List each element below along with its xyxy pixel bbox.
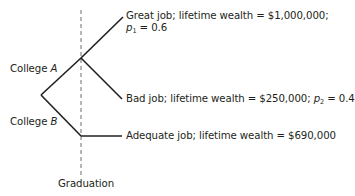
prob-value-p1: = 0.6 bbox=[136, 22, 167, 33]
label-great-job-probability: p1 = 0.6 bbox=[126, 22, 167, 37]
label-bad-job: Bad job; lifetime wealth = $250,000; p2 … bbox=[126, 93, 355, 108]
label-adequate-job: Adequate job; lifetime wealth = $690,000 bbox=[126, 130, 336, 142]
college-a-prefix: College bbox=[10, 63, 50, 74]
branch-great-job bbox=[81, 17, 123, 58]
label-college-b: College B bbox=[10, 116, 57, 128]
college-a-var: A bbox=[50, 63, 57, 74]
label-great-job-line1: Great job; lifetime wealth = $1,000,000; bbox=[126, 10, 328, 22]
label-college-a: College A bbox=[10, 63, 57, 75]
label-graduation: Graduation bbox=[58, 178, 114, 190]
prob-value-p2: = 0.4 bbox=[324, 93, 355, 104]
college-b-var: B bbox=[50, 116, 57, 127]
college-b-prefix: College bbox=[10, 116, 50, 127]
bad-job-text: Bad job; lifetime wealth = $250,000; bbox=[126, 93, 314, 104]
branch-bad-job bbox=[81, 58, 122, 99]
